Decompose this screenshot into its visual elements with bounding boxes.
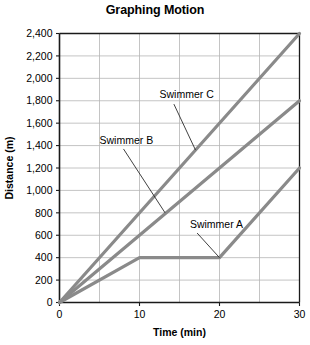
y-tick-label: 1,600	[26, 117, 52, 129]
y-tick-label: 2,400	[26, 27, 52, 39]
y-tick-label: 1,800	[26, 94, 52, 106]
y-tick-label: 200	[35, 274, 53, 286]
series-label: Swimmer C	[160, 88, 215, 100]
x-axis-tick-labels: 0102030	[57, 308, 306, 320]
x-tick-label: 10	[134, 308, 146, 320]
y-axis-tick-labels: 02004006008001,0001,2001,4001,6001,8002,…	[26, 27, 52, 308]
y-tick-label: 0	[47, 296, 53, 308]
y-tick-label: 2,000	[26, 72, 52, 84]
y-tick-label: 400	[35, 251, 53, 263]
y-tick-label: 600	[35, 229, 53, 241]
y-tick-label: 1,200	[26, 162, 52, 174]
x-tick-label: 30	[294, 308, 306, 320]
graphing-motion-chart: Graphing Motion 02004006008001,0001,2001…	[0, 0, 310, 345]
x-tick-label: 20	[214, 308, 226, 320]
y-axis-title: Distance (m)	[3, 136, 15, 199]
chart-title: Graphing Motion	[0, 3, 310, 17]
y-tick-label: 1,000	[26, 184, 52, 196]
annotation-leader-line	[197, 233, 219, 258]
y-tick-label: 2,200	[26, 50, 52, 62]
annotation-leader-line	[174, 104, 196, 150]
x-tick-label: 0	[57, 308, 63, 320]
series-label: Swimmer A	[190, 218, 243, 230]
annotation-leader-line	[124, 149, 166, 213]
chart-plot-area: 02004006008001,0001,2001,4001,6001,8002,…	[0, 0, 310, 345]
y-tick-label: 1,400	[26, 139, 52, 151]
y-tick-label: 800	[35, 207, 53, 219]
x-axis-title: Time (min)	[153, 326, 206, 338]
series-label: Swimmer B	[100, 134, 154, 146]
